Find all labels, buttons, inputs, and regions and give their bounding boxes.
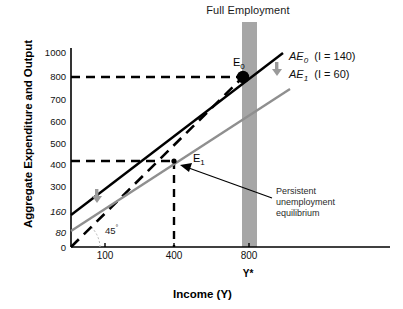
- annotation-line-1: Persistent: [276, 186, 335, 197]
- point-e1: [171, 158, 176, 163]
- forty-five-degree-arc: [90, 226, 100, 247]
- annotation-arrowhead: [180, 163, 192, 172]
- shift-arrow-right-icon: [272, 62, 282, 76]
- annotation-leader-line: [186, 167, 272, 198]
- persistent-unemployment-annotation: Persistent unemployment equilibrium: [276, 186, 335, 219]
- annotation-line-3: equilibrium: [276, 208, 335, 219]
- point-e1-label: E1: [193, 152, 205, 167]
- chart-figure: Full Employment Aggregate Expenditure an…: [0, 0, 403, 309]
- legend-item-ae0: AE0 (I = 140): [289, 50, 356, 65]
- point-e0-label: E0: [233, 56, 245, 71]
- point-e0: [237, 71, 249, 83]
- legend-item-ae1: AE1 (I = 60): [289, 68, 349, 83]
- forty-five-degree-label: 45°: [105, 224, 118, 236]
- annotation-line-2: unemployment: [276, 197, 335, 208]
